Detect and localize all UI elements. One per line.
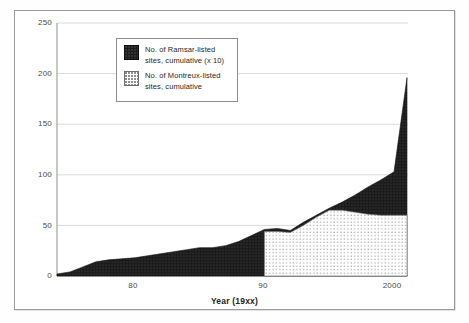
chart-legend: No. of Ramsar-listed sites, cumulative (…	[116, 38, 238, 102]
x-tick-label-80: 80	[113, 281, 153, 290]
chart-figure: 250 200 150 100 50 0 80 90 2000 Year (19…	[0, 0, 469, 323]
legend-entry-ramsar: No. of Ramsar-listed sites, cumulative (…	[124, 45, 232, 66]
series-area-montreux	[264, 210, 407, 276]
legend-entry-montreux: No. of Montreux-listed sites, cumulative	[124, 71, 232, 92]
y-tick-label-100: 100	[28, 170, 52, 179]
y-tick-label-50: 50	[28, 221, 52, 230]
x-tick-label-90: 90	[243, 281, 283, 290]
y-tick-label-250: 250	[28, 18, 52, 27]
x-tick-label-2000: 2000	[372, 281, 412, 290]
y-tick-label-150: 150	[28, 119, 52, 128]
legend-label-ramsar-line2: sites, cumulative (x 10)	[145, 56, 224, 67]
legend-label-ramsar: No. of Ramsar-listed sites, cumulative (…	[145, 45, 224, 66]
legend-label-ramsar-line1: No. of Ramsar-listed	[145, 45, 224, 56]
legend-label-montreux-line1: No. of Montreux-listed	[145, 71, 221, 82]
y-tick-label-0: 0	[28, 271, 52, 280]
x-axis-title: Year (19xx)	[0, 296, 469, 306]
dark-dotted-swatch-icon	[124, 45, 139, 60]
y-tick-label-200: 200	[28, 69, 52, 78]
legend-label-montreux-line2: sites, cumulative	[145, 82, 221, 93]
legend-label-montreux: No. of Montreux-listed sites, cumulative	[145, 71, 221, 92]
light-dotted-swatch-icon	[124, 71, 139, 86]
